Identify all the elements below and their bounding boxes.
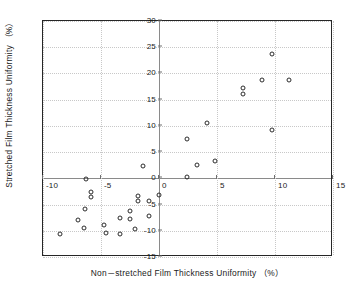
vertical-gridline bbox=[333, 21, 334, 255]
y-axis-tick-mark bbox=[158, 72, 162, 73]
scatter-point bbox=[117, 231, 122, 236]
scatter-point bbox=[146, 214, 151, 219]
scatter-point bbox=[82, 207, 87, 212]
x-axis-tick-label: -5 bbox=[104, 181, 112, 190]
x-axis-tick-mark bbox=[274, 175, 275, 179]
y-axis-tick-mark bbox=[158, 151, 162, 152]
scatter-point bbox=[128, 209, 133, 214]
x-axis-tick-mark bbox=[216, 175, 217, 179]
scatter-point bbox=[102, 223, 107, 228]
scatter-point bbox=[128, 216, 133, 221]
x-axis-tick-mark bbox=[158, 175, 159, 179]
y-axis-tick-mark bbox=[158, 98, 162, 99]
y-axis-tick-label: -15 bbox=[128, 252, 156, 261]
scatter-point bbox=[269, 128, 274, 133]
scatter-point bbox=[81, 225, 86, 230]
x-axis-tick-mark bbox=[332, 175, 333, 179]
x-axis-tick-label: 15 bbox=[336, 181, 345, 190]
y-axis-tick-mark bbox=[158, 203, 162, 204]
y-axis-tick-label: 30 bbox=[128, 16, 156, 25]
y-axis-tick-label: -5 bbox=[128, 199, 156, 208]
horizontal-gridline bbox=[43, 152, 331, 153]
horizontal-gridline bbox=[43, 21, 331, 22]
scatter-point bbox=[204, 120, 209, 125]
horizontal-gridline bbox=[43, 47, 331, 48]
scatter-point bbox=[240, 91, 245, 96]
x-axis-tick-label: 5 bbox=[220, 181, 225, 190]
x-axis-tick-label: -10 bbox=[46, 181, 58, 190]
scatter-point bbox=[212, 159, 217, 164]
y-axis-title: Stretched Film Thickness Uniformity （%） bbox=[0, 0, 18, 208]
scatter-point bbox=[140, 163, 145, 168]
scatter-point bbox=[184, 137, 189, 142]
scatter-point bbox=[157, 193, 162, 198]
scatter-point bbox=[75, 217, 80, 222]
scatter-point bbox=[117, 216, 122, 221]
horizontal-gridline bbox=[43, 257, 331, 258]
y-axis-tick-label: -10 bbox=[128, 225, 156, 234]
horizontal-gridline bbox=[43, 100, 331, 101]
scatter-chart-figure: Stretched Film Thickness Uniformity （%） … bbox=[0, 0, 358, 286]
y-axis-tick-label: 25 bbox=[128, 42, 156, 51]
scatter-point bbox=[58, 231, 63, 236]
y-axis-tick-label: 10 bbox=[128, 120, 156, 129]
scatter-point bbox=[103, 231, 108, 236]
vertical-gridline bbox=[43, 21, 44, 255]
x-axis-title: Non－stretched Film Thickness Uniformity … bbox=[42, 266, 332, 278]
plot-area bbox=[42, 20, 332, 256]
x-axis-tick-label: 0 bbox=[162, 181, 167, 190]
y-axis-tick-label: 5 bbox=[128, 147, 156, 156]
horizontal-gridline bbox=[43, 231, 331, 232]
y-axis-tick-mark bbox=[158, 20, 162, 21]
scatter-point bbox=[83, 177, 88, 182]
y-axis-tick-mark bbox=[158, 256, 162, 257]
y-axis-tick-label: 20 bbox=[128, 68, 156, 77]
y-axis-tick-mark bbox=[158, 229, 162, 230]
y-axis-tick-mark bbox=[158, 124, 162, 125]
scatter-point bbox=[240, 85, 245, 90]
x-axis-tick-mark bbox=[42, 175, 43, 179]
vertical-gridline bbox=[275, 21, 276, 255]
horizontal-gridline bbox=[43, 126, 331, 127]
x-zero-axis-line bbox=[159, 21, 160, 255]
vertical-gridline bbox=[101, 21, 102, 255]
scatter-point bbox=[195, 163, 200, 168]
y-axis-tick-label: 0 bbox=[128, 173, 156, 182]
scatter-point bbox=[184, 175, 189, 180]
x-axis-tick-label: 10 bbox=[278, 181, 287, 190]
y-axis-tick-label: 15 bbox=[128, 94, 156, 103]
scatter-point bbox=[260, 78, 265, 83]
scatter-point bbox=[269, 52, 274, 57]
horizontal-gridline bbox=[43, 205, 331, 206]
x-axis-tick-mark bbox=[100, 175, 101, 179]
horizontal-gridline bbox=[43, 73, 331, 74]
scatter-point bbox=[88, 195, 93, 200]
vertical-gridline bbox=[217, 21, 218, 255]
scatter-point bbox=[286, 78, 291, 83]
y-axis-tick-mark bbox=[158, 46, 162, 47]
scatter-point bbox=[136, 193, 141, 198]
